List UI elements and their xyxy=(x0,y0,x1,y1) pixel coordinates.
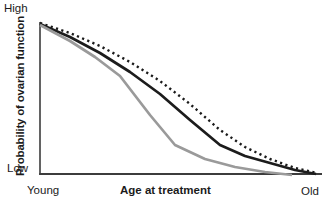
dotted-black-curve xyxy=(40,23,317,173)
solid-black-curve xyxy=(40,24,316,174)
plot-area xyxy=(0,0,324,203)
chart-figure: High Low Probability of ovarian function… xyxy=(0,0,324,203)
